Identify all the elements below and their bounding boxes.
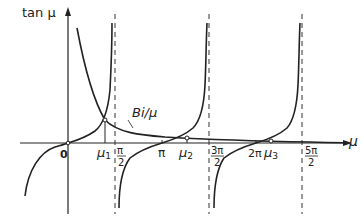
- tan-mu-intersection-diagram: tan μ μ Bi/μ 0 μ1 π 2 π μ2 3π 2 2π μ3 5π…: [0, 0, 363, 223]
- tick-label-mu2: μ2: [178, 145, 193, 161]
- tick-label-pi: π: [158, 146, 165, 160]
- tick-label-3pi-half-den: 2: [214, 157, 220, 168]
- tan-branch-2: [214, 23, 300, 208]
- tick-label-3pi-half-num: 3π: [211, 145, 223, 156]
- tick-label-2pi: 2π: [248, 147, 262, 160]
- tick-label-mu1: μ1: [96, 145, 111, 161]
- origin-point: [66, 141, 70, 145]
- intersection-mu3: [269, 139, 273, 143]
- tick-label-5pi-half-den: 2: [308, 157, 314, 168]
- curve-label-leader: [128, 120, 133, 128]
- x-axis-label: μ: [348, 133, 358, 149]
- tick-label-mu3: μ3: [263, 145, 278, 161]
- y-axis-arrow-icon: [65, 7, 71, 16]
- tick-label-5pi-half-num: 5π: [305, 145, 317, 156]
- intersection-mu1: [103, 118, 107, 122]
- curve-label: Bi/μ: [132, 105, 157, 120]
- intersection-mu2: [185, 136, 189, 140]
- tick-label-pi-half-den: 2: [118, 157, 124, 168]
- tick-label-pi-half-num: π: [117, 145, 123, 156]
- bi-over-mu-curve: [77, 28, 345, 143]
- origin-label: 0: [60, 148, 68, 161]
- y-axis-label: tan μ: [22, 5, 56, 20]
